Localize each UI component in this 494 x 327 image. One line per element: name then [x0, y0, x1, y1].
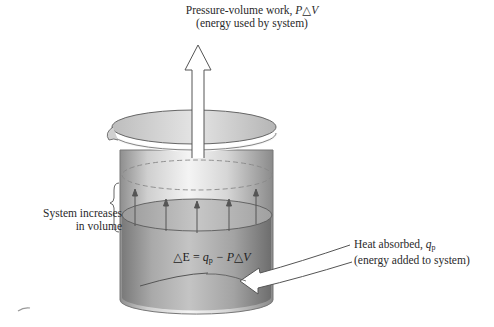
heat-symbol-subscript: p — [432, 243, 436, 252]
heat-label-subtext: (energy added to system) — [354, 254, 470, 267]
work-label-text: Pressure-volume work, — [186, 4, 296, 16]
heat-label-text: Heat absorbed, — [354, 238, 426, 250]
heat-label: Heat absorbed, qp (energy added to syste… — [354, 238, 470, 267]
work-label-subtext: (energy used by system) — [142, 17, 362, 30]
work-symbol: P△V — [295, 4, 318, 16]
equation-lhs: △E = — [173, 250, 202, 264]
work-label: Pressure-volume work, P△V (energy used b… — [142, 4, 362, 30]
beaker-diagram — [0, 0, 494, 327]
volume-label-line2: in volume — [22, 220, 122, 233]
volume-label-line1: System increases — [22, 207, 122, 220]
volume-label: System increases in volume — [22, 207, 122, 233]
energy-equation: △E = qp − P△V — [172, 250, 252, 265]
equation-rhs: − P△V — [213, 250, 251, 264]
